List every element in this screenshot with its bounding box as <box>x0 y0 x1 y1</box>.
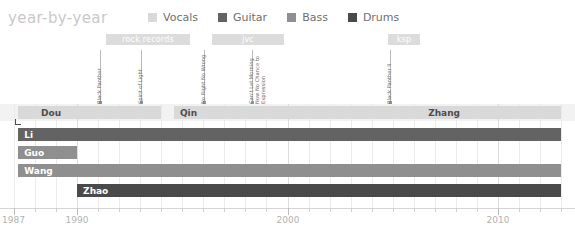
annotation-label: Spirit of Light <box>137 69 143 104</box>
axis-tick <box>245 208 246 212</box>
axis-tick-label: 2010 <box>487 215 510 225</box>
axis-tick <box>351 208 352 212</box>
chart-legend: VocalsGuitarBassDrums <box>148 11 419 24</box>
axis-tick <box>372 208 373 212</box>
axis-tick-label: 2000 <box>277 215 300 225</box>
timeline-bar-guo[interactable]: Guo <box>18 146 77 159</box>
legend-item-bass[interactable]: Bass <box>287 11 328 24</box>
timeline-bar-wang[interactable]: Wang <box>18 164 561 177</box>
axis-tick <box>182 208 183 212</box>
annotation-label: No Right No Wrong <box>200 55 206 104</box>
axis-tick <box>98 208 99 212</box>
legend-swatch-icon <box>287 13 296 22</box>
year-by-year-timeline-chart: year-by-year VocalsGuitarBassDrums rock … <box>0 0 575 236</box>
axis-tick <box>35 208 36 212</box>
legend-label: Vocals <box>163 11 198 24</box>
axis-tick <box>540 208 541 212</box>
axis-tick-label: 1987 <box>2 215 25 225</box>
timeline-bar-zhao[interactable]: Zhao <box>77 184 561 197</box>
page-title: year-by-year <box>8 9 107 27</box>
legend-item-guitar[interactable]: Guitar <box>218 11 267 24</box>
timeline-bar-label: Zhao <box>83 186 108 196</box>
timeline-bar-label: Zhang <box>428 108 460 118</box>
timeline-bar-label: Guo <box>24 148 44 158</box>
axis-tick <box>203 208 204 212</box>
label-band-ksp[interactable]: ksp <box>388 34 420 45</box>
legend-item-vocals[interactable]: Vocals <box>148 11 198 24</box>
timeline-bar-label: Qin <box>180 108 197 118</box>
gridline <box>561 104 562 208</box>
annotation-label: Black Panther <box>96 68 102 104</box>
timeline-bar-dou[interactable]: Dou <box>35 106 161 119</box>
legend-label: Guitar <box>233 11 267 24</box>
axis-tick <box>161 208 162 212</box>
axis-tick <box>498 208 499 215</box>
axis-tick <box>519 208 520 212</box>
legend-swatch-icon <box>218 13 227 22</box>
label-band-jvc[interactable]: jvc <box>212 34 284 45</box>
axis-tick <box>309 208 310 212</box>
label-band-rock-records[interactable]: rock records <box>106 34 190 45</box>
annotation-label: Black Panther II <box>386 64 392 104</box>
timeline-bar-label: Li <box>24 130 33 140</box>
year-axis: 1987199020002010 <box>0 208 575 236</box>
axis-tick <box>435 208 436 212</box>
axis-tick <box>561 208 562 212</box>
legend-swatch-icon <box>148 13 157 22</box>
axis-tick <box>140 208 141 212</box>
axis-tick <box>288 208 289 215</box>
timeline-plot-area: DingDouQinZhangLiGuoWangZhao <box>0 104 575 208</box>
axis-tick <box>477 208 478 212</box>
axis-tick <box>119 208 120 212</box>
axis-tick-label: 1990 <box>66 215 89 225</box>
axis-tick <box>414 208 415 212</box>
timeline-bar-label: Dou <box>41 108 61 118</box>
ding-connector-elbow <box>15 124 21 125</box>
axis-tick <box>14 208 15 215</box>
axis-tick <box>456 208 457 212</box>
legend-label: Drums <box>363 11 399 24</box>
timeline-bar-label: Wang <box>24 166 53 176</box>
legend-swatch-icon <box>348 13 357 22</box>
axis-tick <box>56 208 57 212</box>
timeline-bar-zhang[interactable]: Zhang <box>422 106 561 119</box>
timeline-bar-li[interactable]: Li <box>18 128 561 141</box>
axis-tick <box>224 208 225 212</box>
axis-tick <box>77 208 78 215</box>
axis-tick <box>266 208 267 212</box>
legend-label: Bass <box>302 11 328 24</box>
legend-item-drums[interactable]: Drums <box>348 11 399 24</box>
axis-tick <box>393 208 394 212</box>
axis-tick <box>330 208 331 212</box>
timeline-bar-ding[interactable]: Ding <box>18 106 35 119</box>
timeline-bar-qin[interactable]: Qin <box>174 106 422 119</box>
annotation-label: Expression <box>260 76 266 104</box>
